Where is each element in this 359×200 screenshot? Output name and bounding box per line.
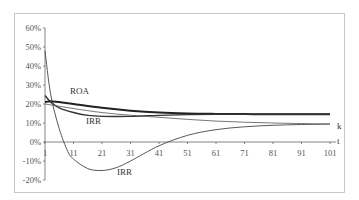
y-tick-label: -10%: [23, 156, 41, 166]
label-roa: ROA: [70, 86, 90, 96]
y-tick-label: 20%: [25, 99, 41, 109]
x-tick-label: 91: [297, 148, 306, 158]
label-irr-upper: IRR: [86, 116, 101, 126]
x-tick-label: 41: [155, 148, 164, 158]
chart: 60%50%40%30%20%10%0%-10%-20% 11121314151…: [0, 0, 359, 200]
series-roa: [45, 101, 330, 114]
x-tick-label: 51: [183, 148, 192, 158]
label-irr-lower: IRR: [117, 167, 132, 177]
y-tick-label: 0%: [30, 137, 41, 147]
y-ticks: 60%50%40%30%20%10%0%-10%-20%: [23, 23, 45, 185]
y-tick-label: 10%: [25, 118, 41, 128]
x-tick-label: 71: [240, 148, 249, 158]
label-k: k: [337, 121, 342, 131]
x-tick-label: 61: [212, 148, 221, 158]
y-tick-label: 40%: [25, 61, 41, 71]
x-tick-label: 31: [126, 148, 135, 158]
y-tick-label: 30%: [25, 80, 41, 90]
label-t: t: [337, 136, 340, 146]
x-tick-label: 21: [98, 148, 107, 158]
y-tick-label: 50%: [25, 42, 41, 52]
x-tick-label: 101: [324, 148, 337, 158]
y-tick-label: -20%: [23, 175, 41, 185]
y-tick-label: 60%: [25, 23, 41, 33]
x-ticks: 1112131415161718191101: [43, 142, 337, 158]
x-tick-label: 81: [269, 148, 278, 158]
x-tick-label: 1: [43, 148, 47, 158]
